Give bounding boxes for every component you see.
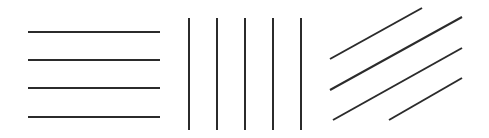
vertical-lines-group bbox=[189, 18, 301, 130]
diagonal-line-3 bbox=[333, 48, 462, 120]
diagonal-line-1 bbox=[330, 8, 422, 59]
diagonal-line-4 bbox=[389, 78, 462, 120]
diagonal-lines-group bbox=[330, 8, 462, 120]
diagonal-line-2 bbox=[330, 17, 462, 90]
line-orientation-diagram bbox=[0, 0, 489, 138]
horizontal-lines-group bbox=[28, 32, 160, 117]
